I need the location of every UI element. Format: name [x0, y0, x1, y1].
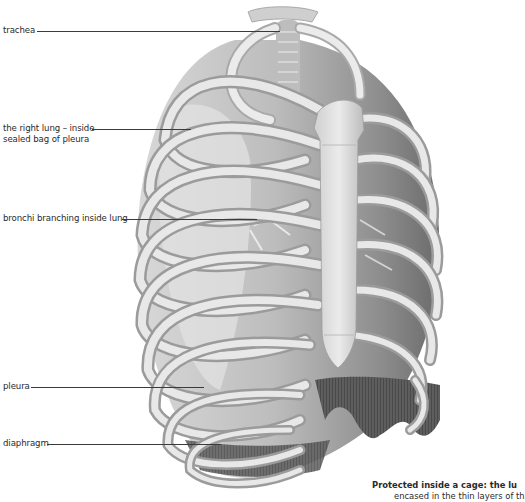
- label-trachea: trachea: [3, 25, 35, 36]
- label-right-lung-line1: the right lung – inside: [3, 123, 94, 134]
- label-diaphragm: diaphragm: [3, 438, 49, 449]
- label-right-lung-line2: sealed bag of pleura: [3, 134, 89, 145]
- figure-caption-line1: Protected inside a cage: the lu: [372, 480, 517, 491]
- label-bronchi: bronchi branching inside lung: [3, 213, 128, 224]
- figure-caption-line2: encased in the thin layers of th: [394, 491, 525, 502]
- leader-line-bronchi: [122, 219, 257, 220]
- leader-line-trachea: [37, 31, 280, 32]
- leader-line-diaphragm: [47, 444, 221, 445]
- leader-line-right-lung: [92, 129, 191, 130]
- label-pleura: pleura: [3, 381, 30, 392]
- leader-line-pleura: [31, 387, 204, 388]
